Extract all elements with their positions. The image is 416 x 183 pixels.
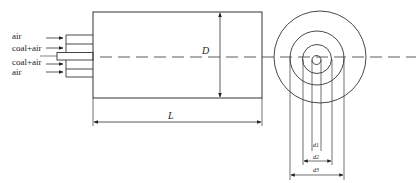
inlet-label-air-bottom: air: [12, 67, 22, 77]
middle-circle: [290, 31, 344, 85]
length-dimension: L: [93, 98, 262, 126]
d3-dimension: d3: [291, 167, 343, 175]
d2-dimension: d2: [304, 154, 331, 161]
inlet-label-air-top: air: [12, 31, 22, 41]
furnace-body: [93, 12, 262, 98]
inlet-labels: air coal+air coal+air air: [12, 31, 42, 77]
d3-label: d3: [313, 167, 319, 173]
diameter-label: D: [201, 45, 210, 56]
burner-furnace-diagram: air coal+air coal+air air D L: [0, 0, 416, 183]
inlet-label-coal-air-top: coal+air: [12, 43, 42, 53]
diameter-extension-lines: [290, 58, 344, 180]
diameter-dimension: D: [201, 13, 220, 97]
burner-inlet: [40, 35, 93, 77]
d2-label: d2: [313, 154, 319, 160]
inner-circle: [303, 45, 332, 74]
d1-label: d1: [313, 142, 319, 148]
inlet-label-coal-air-bottom: coal+air: [12, 57, 42, 67]
length-label: L: [167, 110, 174, 121]
center-pipe: [57, 53, 93, 61]
